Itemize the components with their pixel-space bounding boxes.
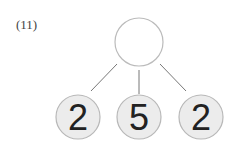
child-value-3: 2	[191, 97, 211, 138]
top-node-empty[interactable]	[115, 18, 163, 66]
connector-left	[91, 64, 117, 91]
child-value-1: 2	[68, 97, 88, 138]
number-bond-diagram: 2 5 2	[0, 0, 239, 148]
connector-right	[160, 64, 186, 91]
child-value-2: 5	[129, 97, 149, 138]
